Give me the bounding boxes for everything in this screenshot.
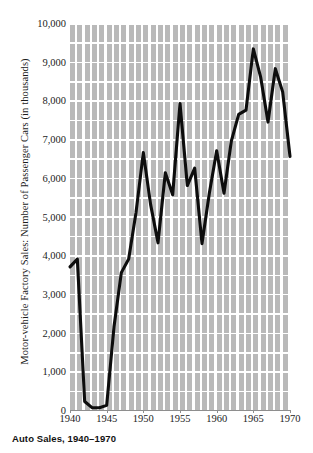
y-tick-label: 4,000	[4, 250, 66, 261]
y-tick-label: 7,000	[4, 134, 66, 145]
x-tick-mark	[290, 410, 291, 413]
y-tick-label: 2,000	[4, 327, 66, 338]
y-tick-label: 1,000	[4, 366, 66, 377]
y-tick-label: 8,000	[4, 95, 66, 106]
x-tick-mark	[107, 410, 108, 413]
y-tick-label: 5,000	[4, 211, 66, 222]
x-tick-label: 1940	[60, 413, 81, 424]
x-tick-mark	[143, 410, 144, 413]
x-tick-mark	[217, 410, 218, 413]
x-tick-mark	[253, 410, 254, 413]
x-tick-label: 1955	[170, 413, 191, 424]
y-tick-label: 9,000	[4, 56, 66, 67]
y-tick-label: 3,000	[4, 288, 66, 299]
y-tick-label: 6,000	[4, 172, 66, 183]
chart-caption: Auto Sales, 1940–1970	[12, 433, 116, 444]
x-tick-mark	[70, 410, 71, 413]
line-series-passenger-cars	[70, 49, 290, 408]
x-tick-label: 1945	[96, 413, 117, 424]
y-tick-label: 0	[4, 405, 66, 416]
y-tick-label: 10,000	[4, 18, 66, 29]
x-tick-label: 1950	[133, 413, 154, 424]
x-tick-label: 1965	[243, 413, 264, 424]
x-tick-mark	[180, 410, 181, 413]
x-tick-label: 1960	[206, 413, 227, 424]
x-tick-label: 1970	[280, 413, 301, 424]
chart-figure: Motor-vehicle Factory Sales: Number of P…	[0, 0, 313, 453]
y-axis-tick-labels: 01,0002,0003,0004,0005,0006,0007,0008,00…	[0, 0, 66, 453]
data-series-layer	[70, 23, 290, 410]
plot-area	[70, 23, 290, 410]
